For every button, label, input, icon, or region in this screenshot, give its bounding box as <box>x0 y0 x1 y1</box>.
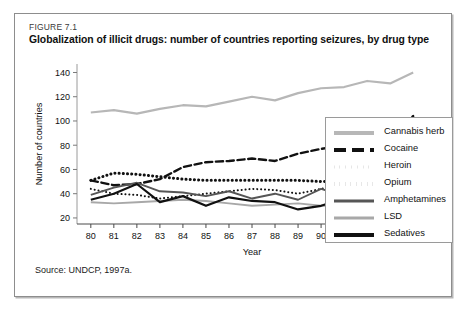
y-axis-tick-label: 100 <box>55 116 70 126</box>
legend-item[interactable]: Heroin <box>326 156 452 173</box>
x-axis-tick-label: 85 <box>201 231 211 241</box>
x-axis-tick-label: 89 <box>293 231 303 241</box>
legend-swatch-icon <box>332 176 376 188</box>
y-axis-tick-label: 80 <box>60 141 70 151</box>
x-axis-tick-label: 82 <box>132 231 142 241</box>
y-axis-title: Number of countries <box>34 102 44 185</box>
x-axis-tick-label: 84 <box>178 231 188 241</box>
legend-item[interactable]: Cocaine <box>326 139 452 156</box>
legend-item-label: Cannabis herb <box>384 126 444 136</box>
legend-swatch-icon <box>332 227 376 239</box>
y-axis-tick-label: 60 <box>60 165 70 175</box>
legend-item[interactable]: Cannabis herb <box>326 122 452 139</box>
legend-swatch-icon <box>332 159 376 171</box>
figure-number: FIGURE 7.1 <box>29 22 77 32</box>
x-axis-tick-label: 87 <box>247 231 257 241</box>
legend-item-label: Amphetamines <box>384 194 446 204</box>
legend-swatch-icon <box>332 142 376 154</box>
legend-swatch-icon <box>332 193 376 205</box>
series-line-0 <box>91 72 413 113</box>
legend-item-label: Opium <box>384 177 411 187</box>
legend-item-label: Cocaine <box>384 143 418 153</box>
legend-item-label: LSD <box>384 211 402 221</box>
legend-item[interactable]: LSD <box>326 207 452 224</box>
legend-swatch-icon <box>332 125 376 137</box>
x-axis-tick-label: 80 <box>86 231 96 241</box>
figure-frame: FIGURE 7.1 Globalization of illicit drug… <box>14 13 452 297</box>
y-axis-tick-label: 140 <box>55 68 70 78</box>
page-title: Globalization of illicit drugs: number o… <box>29 34 443 45</box>
legend-item[interactable]: Amphetamines <box>326 190 452 207</box>
x-axis-title: Year <box>243 247 262 257</box>
y-axis-tick-label: 40 <box>60 189 70 199</box>
legend-item-label: Heroin <box>384 160 411 170</box>
source-note: Source: UNDCP, 1997a. <box>35 265 132 275</box>
y-axis-tick-label: 120 <box>55 92 70 102</box>
x-axis-tick-label: 81 <box>109 231 119 241</box>
legend-item[interactable]: Sedatives <box>326 224 452 241</box>
x-axis-tick-label: 83 <box>155 231 165 241</box>
x-axis-tick-label: 86 <box>224 231 234 241</box>
x-axis-tick-label: 88 <box>270 231 280 241</box>
legend-swatch-icon <box>332 210 376 222</box>
y-axis-tick-label: 20 <box>60 213 70 223</box>
legend-item-label: Sedatives <box>384 228 425 238</box>
chart-legend: Cannabis herbCocaineHeroinOpiumAmphetami… <box>325 117 453 243</box>
legend-item[interactable]: Opium <box>326 173 452 190</box>
